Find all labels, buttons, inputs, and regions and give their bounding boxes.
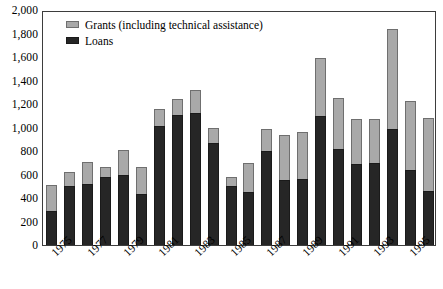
- y-axis-tick-label: 800: [20, 146, 38, 158]
- bar-1983: [190, 90, 201, 245]
- bar-segment-loans: [208, 143, 219, 245]
- bar-segment-grants: [118, 150, 129, 175]
- bar-1975: [46, 185, 57, 245]
- bar-segment-grants: [387, 29, 398, 129]
- bar-segment-grants: [369, 119, 380, 163]
- bar-segment-loans: [190, 113, 201, 245]
- bar-1989: [297, 132, 308, 245]
- bar-segment-loans: [369, 163, 380, 245]
- bar-segment-loans: [387, 129, 398, 245]
- bar-segment-grants: [190, 90, 201, 113]
- bar-segment-loans: [226, 186, 237, 245]
- bar-1990: [315, 58, 326, 245]
- legend-swatch-loans-icon: [66, 37, 79, 44]
- bar-1985: [226, 177, 237, 245]
- bar-1988: [279, 135, 290, 245]
- bar-segment-loans: [172, 115, 183, 245]
- y-axis-tick-label: 1,800: [12, 29, 38, 41]
- y-axis-tick-label: 400: [20, 193, 38, 205]
- bar-segment-grants: [46, 185, 57, 211]
- bar-segment-loans: [297, 179, 308, 245]
- legend-item-grants: Grants (including technical assistance): [66, 17, 263, 32]
- x-axis: 1975197719791981198319851987198919911993…: [42, 246, 436, 289]
- bar-segment-loans: [82, 184, 93, 245]
- bar-1987: [261, 129, 272, 245]
- bar-segment-grants: [297, 132, 308, 179]
- y-axis-tick-label: 1,400: [12, 76, 38, 88]
- bar-1977: [82, 162, 93, 245]
- y-axis-tick-label: 600: [20, 170, 38, 182]
- y-axis-tick-label: 200: [20, 217, 38, 229]
- bar-1996: [423, 118, 434, 245]
- bar-segment-grants: [208, 128, 219, 143]
- bar-segment-grants: [100, 167, 111, 176]
- bar-segment-loans: [405, 170, 416, 245]
- bar-segment-grants: [315, 58, 326, 116]
- y-axis-tick-label: 1,000: [12, 123, 38, 135]
- bar-segment-grants: [136, 167, 147, 194]
- bar-segment-grants: [351, 119, 362, 164]
- legend-swatch-grants-icon: [66, 21, 79, 28]
- y-axis-tick-label: 1,200: [12, 99, 38, 111]
- y-axis: 02004006008001,0001,2001,4001,6001,8002,…: [0, 0, 42, 289]
- bar-1986: [243, 163, 254, 245]
- bar-1995: [405, 101, 416, 245]
- legend-label: Grants (including technical assistance): [85, 19, 263, 31]
- bar-segment-loans: [154, 126, 165, 245]
- bar-segment-grants: [279, 135, 290, 181]
- bar-segment-loans: [46, 211, 57, 245]
- bar-segment-grants: [226, 177, 237, 186]
- bar-segment-loans: [261, 151, 272, 245]
- bar-segment-loans: [118, 175, 129, 246]
- bar-1994: [387, 29, 398, 245]
- bar-1991: [333, 98, 344, 245]
- bar-segment-grants: [243, 163, 254, 192]
- legend-item-loans: Loans: [66, 33, 263, 48]
- y-axis-tick-label: 1,600: [12, 52, 38, 64]
- bar-1979: [118, 150, 129, 245]
- bar-1984: [208, 128, 219, 246]
- bar-segment-grants: [154, 109, 165, 127]
- bar-segment-loans: [315, 116, 326, 245]
- bar-segment-loans: [333, 149, 344, 245]
- bar-segment-grants: [261, 129, 272, 151]
- bar-1982: [172, 99, 183, 245]
- legend: Grants (including technical assistance)L…: [66, 17, 263, 49]
- bar-1981: [154, 109, 165, 245]
- bar-segment-grants: [64, 172, 75, 186]
- bar-segment-grants: [423, 118, 434, 191]
- y-axis-tick-label: 2,000: [12, 5, 38, 17]
- y-axis-tick-label: 0: [32, 240, 38, 252]
- bar-1993: [369, 119, 380, 245]
- bar-segment-grants: [333, 98, 344, 149]
- bar-1992: [351, 119, 362, 245]
- bar-segment-grants: [405, 101, 416, 170]
- legend-label: Loans: [85, 35, 113, 47]
- stacked-bar-chart: 02004006008001,0001,2001,4001,6001,8002,…: [0, 0, 443, 289]
- bar-segment-grants: [172, 99, 183, 114]
- bar-segment-grants: [82, 162, 93, 184]
